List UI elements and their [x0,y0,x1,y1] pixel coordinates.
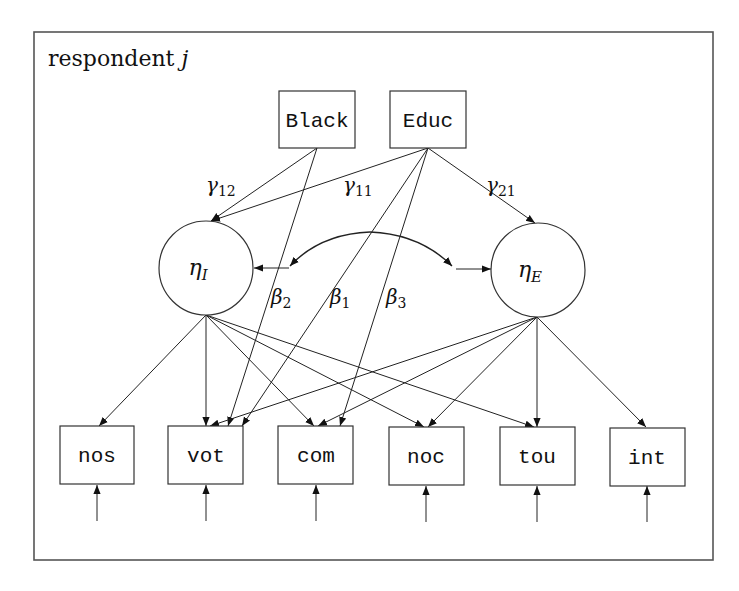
path-etaI-to-nos [99,315,206,426]
path-educ-to-etaI [211,148,428,221]
covariance-arc-to-etaI [290,232,370,266]
latent-etaE: ηE [491,223,585,317]
measurement-paths-etaE [210,317,646,427]
path-etaI-to-noc [206,315,424,427]
indicator-noc: noc [389,427,464,485]
indicator-tou: tou [500,427,575,485]
plate-label: respondent j [48,46,188,71]
path-etaE-to-int [537,317,646,427]
label-gamma11: γ11 [343,173,373,199]
latent-etaI: ηI [159,221,253,315]
error-arrows [97,485,647,522]
indicator-vot: vot [168,426,243,484]
indicator-nos-label: nos [78,445,116,468]
path-educ-to-etaE [428,148,535,223]
label-beta3: β3 [385,285,406,311]
path-etaE-to-com [318,317,537,426]
indicator-tou-label: tou [518,446,556,469]
covariate-educ-label: Educ [403,110,453,133]
covariance-arc-to-etaE [370,232,452,266]
sem-path-diagram: respondent j [0,0,739,591]
label-gamma21: γ21 [486,173,516,199]
covariate-educ: Educ [390,91,466,148]
indicator-com: com [278,426,353,484]
indicator-int-label: int [628,447,666,470]
covariate-black: Black [279,91,355,148]
label-gamma12: γ12 [206,173,236,199]
indicator-com-label: com [297,445,335,468]
label-beta1: β1 [329,285,350,311]
indicator-int: int [610,428,685,486]
indicator-nos: nos [60,426,134,484]
path-etaE-to-noc [428,317,537,427]
path-labels: γ12 γ11 γ21 β2 β1 β3 [206,173,516,311]
latent-covariance [254,232,491,269]
label-beta2: β2 [270,285,291,311]
measurement-paths-etaI [99,315,534,427]
indicator-vot-label: vot [187,445,225,468]
covariate-black-label: Black [285,110,348,133]
indicator-noc-label: noc [407,446,445,469]
